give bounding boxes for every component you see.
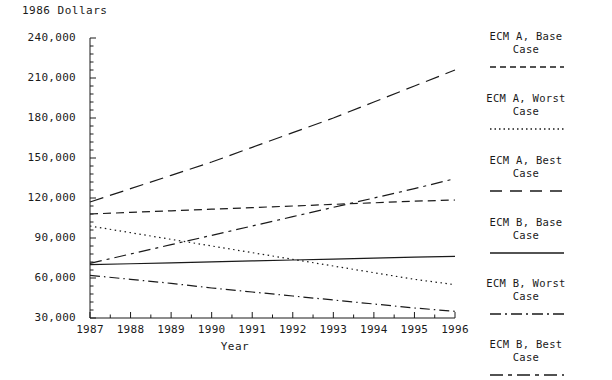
legend-item-label-cont: Case bbox=[474, 290, 578, 303]
legend-item-label-cont: Case bbox=[474, 167, 578, 180]
legend-item[interactable]: ECM A, BestCase bbox=[470, 154, 612, 196]
legend-item[interactable]: ECM B, BaseCase bbox=[470, 216, 612, 258]
legend-swatch-solid bbox=[488, 248, 566, 258]
series-line bbox=[90, 200, 455, 214]
legend-item[interactable]: ECM A, BaseCase bbox=[470, 30, 612, 72]
legend-swatch-dash-dot-dash bbox=[488, 370, 566, 380]
data-series bbox=[90, 70, 455, 311]
legend-item[interactable]: ECM B, BestCase bbox=[470, 338, 612, 380]
legend-item[interactable]: ECM A, WorstCase bbox=[470, 92, 612, 134]
legend-swatch-dashed-short bbox=[488, 62, 566, 72]
axes bbox=[90, 38, 455, 318]
series-line bbox=[90, 179, 455, 264]
legend-item-label-cont: Case bbox=[474, 105, 578, 118]
legend-item-label: ECM A, Worst bbox=[474, 92, 578, 105]
legend-swatch-dashed-long bbox=[488, 186, 566, 196]
legend-item-label: ECM A, Base bbox=[474, 30, 578, 43]
legend-item-label-cont: Case bbox=[474, 229, 578, 242]
series-line bbox=[90, 226, 455, 285]
legend-item-label: ECM A, Best bbox=[474, 154, 578, 167]
legend-item-label-cont: Case bbox=[474, 351, 578, 364]
legend-item-label: ECM B, Base bbox=[474, 216, 578, 229]
legend-item[interactable]: ECM B, WorstCase bbox=[470, 277, 612, 319]
legend-item-label-cont: Case bbox=[474, 43, 578, 56]
legend-item-label: ECM B, Best bbox=[474, 338, 578, 351]
legend-swatch-dotted bbox=[488, 124, 566, 134]
series-line bbox=[90, 256, 455, 264]
series-line bbox=[90, 275, 455, 311]
legend-swatch-dash-dot bbox=[488, 309, 566, 319]
legend-item-label: ECM B, Worst bbox=[474, 277, 578, 290]
series-line bbox=[90, 70, 455, 202]
